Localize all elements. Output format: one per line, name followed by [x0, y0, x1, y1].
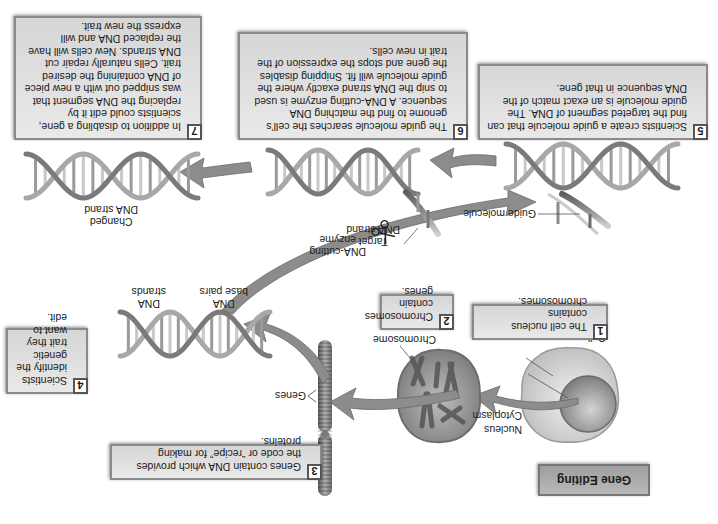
step-4-text: Scientists identify the genetic trait th… [15, 312, 79, 387]
step-7-number: 7 [187, 124, 202, 140]
step-4-number: 4 [73, 378, 88, 394]
dna-helix-step5 [506, 144, 678, 188]
step-6-number: 6 [453, 124, 468, 140]
step-7-text: In addition to disabling a gene, scienti… [23, 21, 193, 134]
step-1-box: 1 The cell nucleus contains chromosomes. [472, 304, 608, 340]
target-dna-strand-label: Target DNA strand [346, 224, 400, 248]
dna-helix-step6 [268, 150, 418, 194]
cell-illustration [521, 348, 618, 442]
cytoplasm-label: Cytoplasm [472, 410, 522, 422]
dna-strand [120, 312, 270, 356]
changed-dna-strand-label: Changed DNA strand [84, 204, 138, 228]
step-4-box: 4 Scientists identify the genetic trait … [6, 328, 88, 394]
arrow-5-to-6 [430, 148, 496, 178]
step-7-box: 7 In addition to disabling a gene, scien… [14, 16, 202, 140]
dna-helix-step7 [26, 154, 198, 198]
step-2-box: 2 Chromosomes contain genes. [380, 294, 454, 330]
dna-base-pairs-label: DNA base pairs [200, 286, 248, 310]
arrow-6-to-7 [180, 158, 252, 188]
step-2-number: 2 [439, 314, 454, 330]
step-1-number: 1 [593, 324, 608, 340]
step-6-box: 6 The guide molecule searches the cell’s… [238, 32, 468, 140]
step-2-text: Chromosomes contain genes. [389, 286, 445, 324]
step-3-text: Genes contain DNA which provides the cod… [119, 436, 313, 474]
step-6-text: The guide molecule searches the cell’s g… [247, 46, 459, 134]
dna-strands-label: DNA strands [132, 286, 166, 310]
step-3-number: 3 [307, 464, 322, 480]
chromosome-label: Chromosome [373, 334, 436, 346]
dna-strand [26, 154, 198, 198]
step-5-text: Scientists create a guide molecule that … [487, 83, 699, 133]
step-3-box: 3 Genes contain DNA which provides the c… [110, 444, 322, 480]
step-1-text: The cell nucleus contains chromosomes. [481, 296, 599, 334]
nucleus-label: Nucleus [484, 424, 522, 436]
dna-strand [268, 150, 418, 194]
step-5-number: 5 [693, 124, 708, 140]
genes-label: Genes [275, 390, 306, 402]
dna-helix-step4 [120, 312, 270, 356]
gene-editing-diagram: Gene Editing [0, 0, 718, 524]
guide-molecule-illustration [538, 194, 608, 234]
guide-molecule-label: Guide molecule [463, 208, 536, 220]
step-5-box: 5 Scientists create a guide molecule tha… [478, 64, 708, 140]
dna-strand [506, 144, 678, 188]
